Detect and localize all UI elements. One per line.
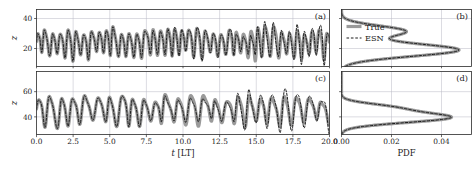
- panel-c-label: (c): [315, 73, 326, 83]
- panel-d-xticklabel: 0.02: [383, 137, 399, 146]
- panel-c-axis-label-z: z: [9, 100, 19, 106]
- panel-a-label: (a): [315, 11, 326, 21]
- panel-c-xticklabel: 10.0: [175, 137, 192, 146]
- panel-d-label: (d): [456, 73, 468, 83]
- figure-container: 2040(a)(b)0.02.55.07.510.012.515.017.520…: [0, 0, 473, 171]
- panel-c-xticklabel: 17.5: [285, 137, 302, 146]
- panel-c-yticklabel: 60: [23, 87, 33, 96]
- legend-label-true: True: [365, 22, 385, 32]
- panel-d-xticklabel: 0.04: [433, 137, 450, 146]
- panel-d-series-true: [342, 72, 452, 135]
- panel-c-xticklabel: 12.5: [211, 137, 228, 146]
- panel-c-xticklabel: 0.0: [31, 137, 43, 146]
- panel-c-xticklabel: 15.0: [248, 137, 265, 146]
- panel-c-yticklabel: 40: [23, 113, 33, 122]
- panel-c-xticklabel: 2.5: [67, 137, 79, 146]
- panel-c-xticklabel: 5.0: [104, 137, 116, 146]
- figure-svg: 2040(a)(b)0.02.55.07.510.012.515.017.520…: [0, 0, 473, 171]
- panel-a-axis-label-z: z: [9, 35, 19, 41]
- panel-a-yticklabel: 20: [23, 44, 33, 53]
- panel-c-xticklabel: 7.5: [140, 137, 152, 146]
- panel-c-axis-label-time: t [LT]: [171, 148, 194, 158]
- legend-label-esn: ESN: [365, 33, 384, 43]
- panel-b-label: (b): [456, 11, 468, 21]
- panel-d-xticklabel: 0.00: [333, 137, 350, 146]
- panel-a-yticklabel: 40: [23, 14, 33, 23]
- panel-d-axis-label-pdf: PDF: [397, 148, 415, 158]
